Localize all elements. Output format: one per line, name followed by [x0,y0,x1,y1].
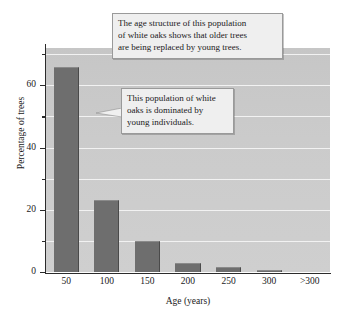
callout-line: The age structure of this population [118,18,277,30]
gridline [46,241,330,242]
bar-250 [216,267,241,272]
x-tick-label: >300 [289,277,330,287]
callout-line: oaks is dominated by [127,105,228,117]
x-axis-title: Age (years) [46,296,330,306]
callout-line: of white oaks shows that older trees [118,30,277,42]
bar-chart-figure: 0204060 50100150200250300>300 Percentage… [0,0,341,326]
callout-line: are being replaced by young trees. [118,42,277,54]
y-axis-title: Percentage of trees [16,78,26,188]
gridline [46,85,330,86]
y-axis-line [45,44,46,274]
x-axis-line [45,273,331,274]
bar-50 [54,67,79,272]
x-tick-label: 100 [87,277,128,287]
y-tick-minor [42,179,46,180]
x-tick-label: 300 [249,277,290,287]
y-tick-major [40,272,46,273]
gridline [46,179,330,180]
y-tick-major [40,148,46,149]
y-tick-minor [42,54,46,55]
plot-background [46,48,330,272]
plot-area [46,48,330,272]
y-tick-label: 20 [14,205,36,215]
gridline [46,148,330,149]
callout-line: young individuals. [127,117,228,129]
y-tick-major [40,85,46,86]
bar-150 [135,241,160,272]
x-tick-label: 150 [127,277,168,287]
bar-200 [175,263,200,272]
callout-line: This population of white [127,93,228,105]
bar-100 [94,200,119,272]
callout-leader-line [96,108,122,118]
annotation-callout-young-individuals: This population of white oaks is dominat… [121,88,234,134]
x-tick-label: 250 [208,277,249,287]
annotation-callout-age-structure: The age structure of this population of … [112,13,283,59]
x-tick-label: 50 [46,277,87,287]
y-tick-label: 0 [14,267,36,277]
y-tick-major [40,210,46,211]
y-tick-minor [42,241,46,242]
x-tick-label: 200 [168,277,209,287]
y-tick-minor [42,116,46,117]
gridline [46,210,330,211]
